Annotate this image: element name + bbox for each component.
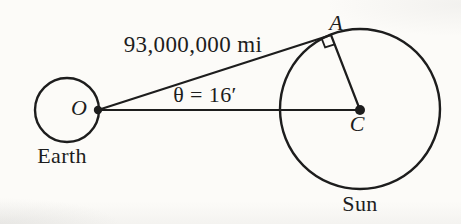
point-o-dot [94,106,102,114]
angle-label: θ = 16′ [173,82,237,107]
earth-sun-diagram: 93,000,000 mi θ = 16′ O A C Earth Sun [0,0,461,224]
point-o-label: O [71,95,87,120]
earth-circle [35,78,99,142]
earth-label: Earth [37,143,87,168]
point-c-label: C [350,111,365,136]
earth-sun-geometry-figure: 93,000,000 mi θ = 16′ O A C Earth Sun [0,0,461,224]
sun-label: Sun [342,191,377,216]
radius-line-a-c [331,35,360,110]
distance-label: 93,000,000 mi [124,32,263,57]
point-a-label: A [327,10,343,35]
